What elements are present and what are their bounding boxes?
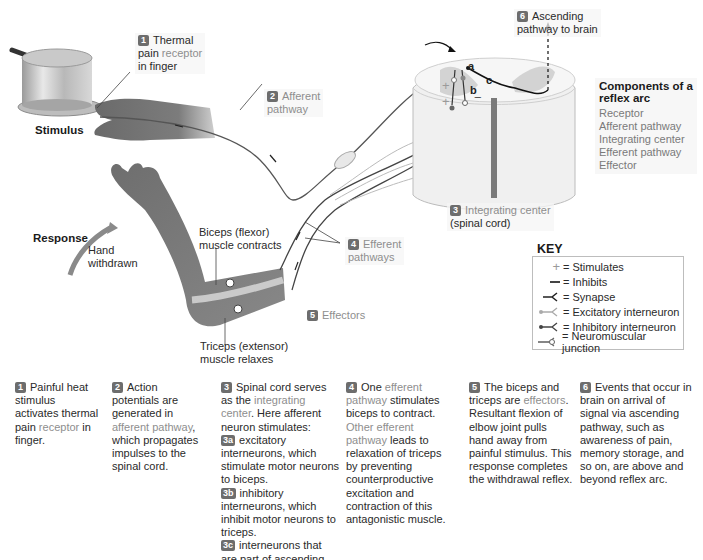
- key-item: = Excitatory interneuron: [533, 304, 683, 319]
- minus-icon: −: [474, 90, 482, 105]
- label-efferent-pathways: 4Efferent pathways: [345, 237, 404, 265]
- component-item: Afferent pathway: [599, 120, 693, 133]
- component-item: Efferent pathway: [599, 146, 693, 159]
- label-effectors: 5Effectors: [307, 309, 365, 322]
- key-item: = Neuromuscular junction: [533, 334, 683, 349]
- hot-pot-icon: [12, 49, 102, 116]
- step-5: 5The biceps and triceps are effectors. R…: [469, 381, 573, 487]
- step-badge: 5: [469, 382, 480, 393]
- label-ascending-pathway: 6Ascending pathway to brain: [514, 9, 601, 37]
- step-4: 4One efferent pathway stimulates biceps …: [346, 381, 454, 526]
- label-triceps: Triceps (extensor) muscle relaxes: [200, 340, 288, 366]
- label-thermal-receptor: 1Thermal pain receptor in finger: [135, 33, 205, 74]
- label-cord-a: a: [468, 60, 474, 72]
- step-badge: 4: [348, 239, 359, 250]
- step-badge: 2: [267, 91, 278, 102]
- plus-icon: +: [442, 94, 450, 109]
- step-badge: 3: [221, 382, 232, 393]
- step-badge: 3b: [221, 488, 236, 499]
- key-legend: + = Stimulates = Inhibits = Synapse = Ex…: [532, 256, 684, 350]
- synapse-icon: [533, 292, 563, 302]
- step-badge: 1: [138, 35, 149, 46]
- step-badge: 3a: [221, 435, 235, 446]
- neuromuscular-junction-icon: [533, 336, 562, 348]
- step-badge: 4: [346, 382, 357, 393]
- label-integrating-center: 3Integrating center (spinal cord): [447, 203, 554, 231]
- key-title: KEY: [537, 242, 563, 256]
- component-item: Effector: [599, 159, 693, 172]
- component-item: Integrating center: [599, 133, 693, 146]
- spinal-cord: [413, 22, 575, 210]
- label-afferent-pathway: 2Afferent pathway: [264, 89, 323, 117]
- components-list: Receptor Afferent pathway Integrating ce…: [599, 107, 693, 172]
- minus-icon: [533, 281, 563, 283]
- step-3c: 3cinterneurons that are part of ascendin…: [221, 539, 339, 560]
- label-biceps: Biceps (flexor) muscle contracts: [199, 226, 282, 252]
- components-panel: Components of a reflex arc Receptor Affe…: [595, 78, 697, 174]
- label-response: Response: [33, 232, 88, 244]
- component-item: Receptor: [599, 107, 693, 120]
- excitatory-interneuron-icon: [533, 307, 563, 317]
- step-3: 3Spinal cord serves as the integrating c…: [221, 381, 339, 560]
- stimulated-hand: [94, 99, 215, 141]
- step-1: 1Painful heat stimulus activates thermal…: [15, 381, 101, 447]
- plus-icon: +: [442, 78, 450, 93]
- step-badge: 1: [15, 382, 26, 393]
- label-cord-c: c: [486, 74, 492, 86]
- step-badge: 3c: [221, 540, 235, 551]
- label-stimulus: Stimulus: [35, 124, 84, 136]
- key-item: = Inhibits: [533, 274, 683, 289]
- step-3a: 3aexcitatory interneurons, which stimula…: [221, 434, 339, 487]
- step-badge: 2: [112, 382, 123, 393]
- label-hand-withdrawn: Hand withdrawn: [88, 244, 138, 270]
- components-title: Components of a reflex arc: [599, 80, 693, 104]
- step-badge: 6: [580, 382, 591, 393]
- step-3b: 3binhibitory interneurons, which inhibit…: [221, 487, 339, 540]
- step-badge: 3: [450, 205, 461, 216]
- step-2: 2Action potentials are generated in affe…: [112, 381, 207, 473]
- plus-icon: +: [533, 259, 563, 274]
- key-item: = Synapse: [533, 289, 683, 304]
- inhibitory-interneuron-icon: [533, 322, 563, 332]
- step-6: 6Events that occur in brain on arrival o…: [580, 381, 692, 487]
- step-badge: 5: [307, 310, 318, 321]
- key-item: + = Stimulates: [533, 259, 683, 274]
- step-badge: 6: [517, 11, 528, 22]
